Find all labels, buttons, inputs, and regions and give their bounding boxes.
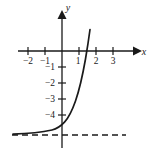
x-tick-labels: −2 −1 1 2 3 (23, 56, 116, 66)
x-axis-label: x (141, 46, 147, 57)
graph-canvas: −2 −1 1 2 3 −1 −2 −3 −4 x y (0, 0, 155, 155)
y-tick-label--2: −2 (45, 78, 55, 88)
y-tick-label--3: −3 (45, 94, 55, 104)
x-axis (18, 47, 142, 56)
y-axis-label: y (65, 2, 71, 13)
y-tick-label--1: −1 (45, 62, 55, 72)
x-tick-label-2: 2 (94, 56, 99, 66)
y-tick-label--4: −4 (45, 110, 55, 120)
x-axis-arrow-icon (133, 47, 142, 56)
x-tick-label--2: −2 (23, 56, 33, 66)
x-tick-label-1: 1 (76, 56, 81, 66)
x-tick-label-3: 3 (111, 56, 116, 66)
exponential-function-graph: −2 −1 1 2 3 −1 −2 −3 −4 x y (0, 0, 155, 155)
y-tick-labels: −1 −2 −3 −4 (45, 62, 55, 120)
